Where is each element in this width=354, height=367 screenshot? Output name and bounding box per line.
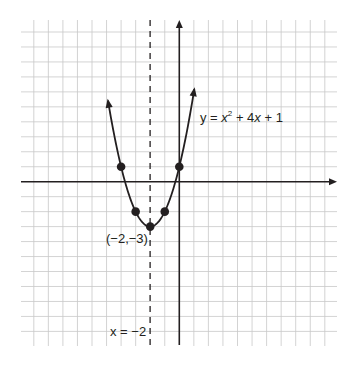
data-point <box>117 162 126 171</box>
data-point <box>131 207 140 216</box>
y-axis-arrow-icon <box>176 20 183 28</box>
equation-label: y = x2 + 4x + 1 <box>200 109 283 125</box>
data-point <box>175 162 184 171</box>
axis-of-symmetry-label: x = −2 <box>110 324 146 339</box>
data-point <box>146 222 155 231</box>
x-axis-arrow-icon <box>329 178 337 185</box>
parabola-graph: y = x2 + 4x + 1 (−2,−3) x = −2 <box>0 0 354 367</box>
data-point <box>160 207 169 216</box>
vertex-label: (−2,−3) <box>106 231 148 246</box>
axes <box>21 20 337 345</box>
